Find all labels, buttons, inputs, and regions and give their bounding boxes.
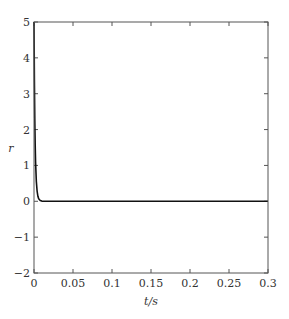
tick-labels: 00.050.10.150.20.250.3−2−1012345 (14, 16, 277, 290)
y-tick-label: −2 (14, 267, 30, 280)
ticks (34, 22, 268, 273)
y-tick-label: 4 (23, 52, 30, 65)
x-tick-label: 0 (31, 277, 38, 290)
plot-frame (34, 22, 268, 273)
y-tick-label: −1 (14, 231, 30, 244)
chart: 00.050.10.150.20.250.3−2−1012345 t/s r (0, 0, 289, 319)
x-axis-label: t/s (144, 295, 158, 308)
x-tick-label: 0.25 (217, 277, 242, 290)
x-tick-label: 0.15 (139, 277, 164, 290)
y-tick-label: 3 (23, 88, 30, 101)
y-tick-label: 2 (23, 124, 30, 137)
series-layer (34, 22, 268, 201)
x-tick-label: 0.1 (103, 277, 121, 290)
x-tick-label: 0.3 (259, 277, 277, 290)
series-line-r (34, 22, 268, 201)
y-tick-label: 5 (23, 16, 30, 29)
y-tick-label: 0 (23, 195, 30, 208)
x-tick-label: 0.05 (61, 277, 86, 290)
y-tick-label: 1 (23, 159, 30, 172)
y-axis-label: r (8, 142, 14, 155)
x-tick-label: 0.2 (181, 277, 199, 290)
